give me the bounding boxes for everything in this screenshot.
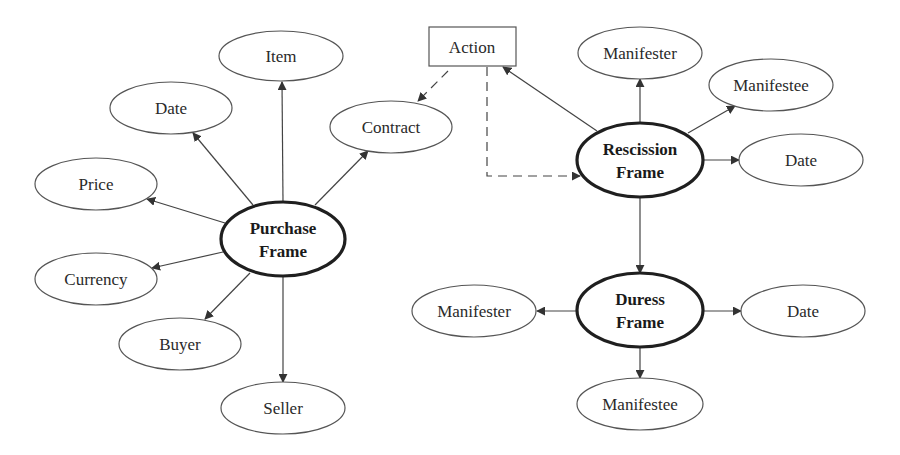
node-purchase-date-label: Date — [155, 99, 187, 118]
node-buyer-label: Buyer — [159, 335, 201, 354]
node-buyer: Buyer — [119, 318, 241, 370]
rescission-frame-label-line2: Frame — [616, 163, 665, 182]
node-rescission-manifestee: Manifestee — [709, 59, 833, 111]
purchase-frame-label-line1: Purchase — [250, 219, 317, 238]
node-contract-label: Contract — [362, 118, 421, 137]
duress-frame-label-line1: Duress — [615, 290, 665, 309]
frame-diagram: Item Date Price Contract Currency Buyer … — [0, 0, 900, 455]
node-seller-label: Seller — [263, 399, 303, 418]
node-rescission-manifestee-label: Manifestee — [733, 76, 809, 95]
node-duress-date-label: Date — [787, 302, 819, 321]
node-item: Item — [219, 31, 343, 81]
edge-purchase-contract — [315, 151, 368, 205]
node-duress-frame: Duress Frame — [577, 273, 703, 347]
node-purchase-frame: Purchase Frame — [221, 202, 345, 276]
rescission-frame-label-line1: Rescission — [603, 140, 678, 159]
node-duress-manifestee-label: Manifestee — [602, 395, 678, 414]
node-price: Price — [35, 158, 157, 210]
node-rescission-date-label: Date — [785, 151, 817, 170]
edge-purchase-price — [147, 199, 225, 223]
edge-rescission-action — [503, 67, 597, 131]
node-rescission-manifester: Manifester — [578, 27, 702, 79]
edge-purchase-item — [282, 82, 283, 202]
node-rescission-manifester-label: Manifester — [603, 44, 677, 63]
node-purchase-date: Date — [110, 82, 232, 134]
node-rescission-frame: Rescission Frame — [577, 123, 703, 197]
edge-purchase-buyer — [205, 273, 250, 319]
node-currency-label: Currency — [64, 270, 128, 289]
edge-rescission-manifestee — [688, 106, 735, 133]
node-item-label: Item — [265, 47, 296, 66]
duress-frame-label-line2: Frame — [616, 313, 665, 332]
edge-action-contract — [418, 71, 448, 101]
node-duress-date: Date — [741, 285, 865, 337]
node-currency: Currency — [35, 253, 157, 305]
node-contract: Contract — [330, 101, 452, 153]
node-rescission-date: Date — [739, 134, 863, 186]
edge-action-rescission — [487, 67, 580, 176]
node-duress-manifester-label: Manifester — [437, 302, 511, 321]
node-duress-manifester: Manifester — [412, 285, 536, 337]
purchase-frame-label-line2: Frame — [259, 242, 308, 261]
node-action-label: Action — [449, 38, 496, 57]
node-seller: Seller — [221, 382, 345, 434]
node-duress-manifestee: Manifestee — [577, 378, 703, 430]
node-price-label: Price — [79, 175, 114, 194]
edge-purchase-date — [193, 133, 253, 205]
node-action: Action — [429, 27, 516, 66]
edge-purchase-currency — [152, 252, 223, 268]
